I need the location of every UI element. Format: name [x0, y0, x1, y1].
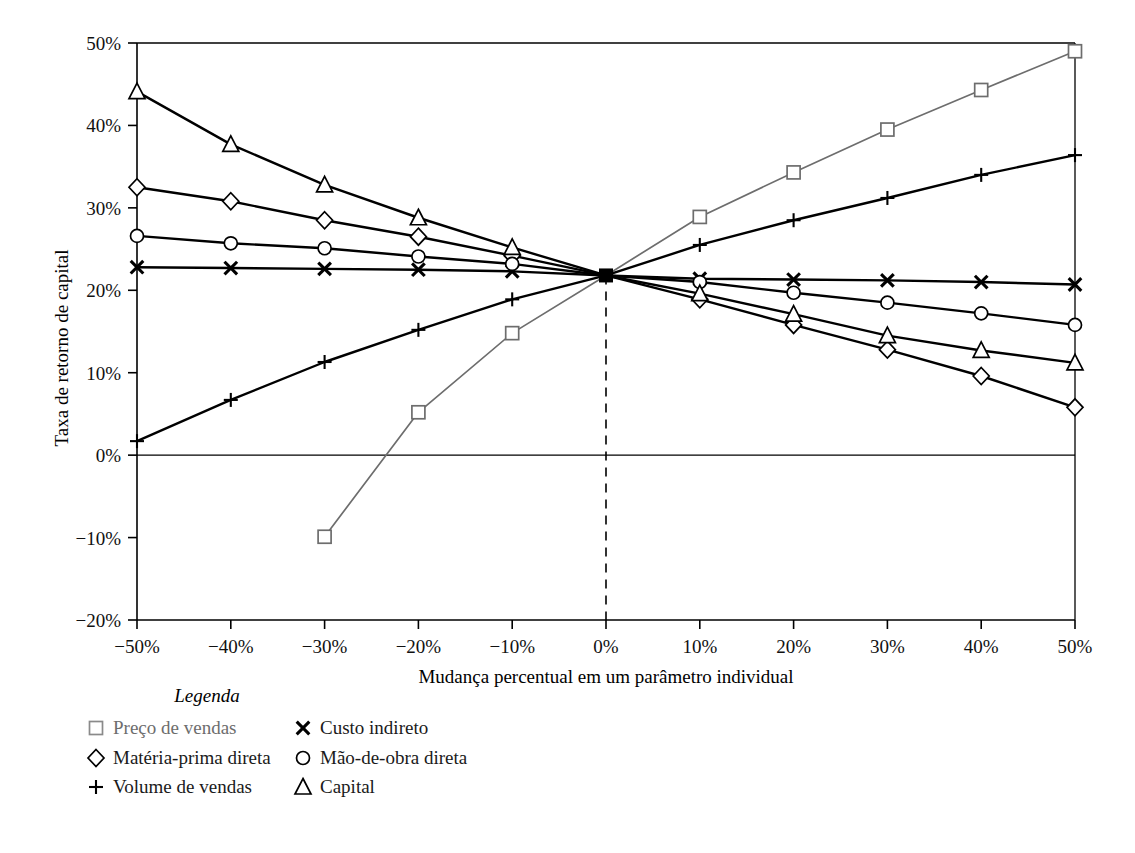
data-point-diamond: [223, 193, 239, 210]
y-tick-label: −20%: [75, 610, 121, 631]
y-tick-label: 10%: [86, 363, 121, 384]
x-tick-label: 20%: [776, 636, 811, 657]
x-tick-label: −30%: [302, 636, 348, 657]
data-point-circle: [224, 237, 237, 250]
data-point-diamond: [973, 368, 989, 385]
data-point-circle: [1069, 318, 1082, 331]
x-tick-label: 50%: [1058, 636, 1093, 657]
legend-item-label: Custo indireto: [320, 717, 428, 738]
data-point-triangle: [317, 176, 333, 192]
legend-item[interactable]: Volume de vendas: [89, 776, 252, 797]
data-point-circle: [975, 307, 988, 320]
x-axis-ticks: −50%−40%−30%−20%−10%0%10%20%30%40%50%: [114, 620, 1092, 657]
legend-item[interactable]: Matéria-prima direta: [88, 747, 271, 768]
chart-canvas: −20%−10%0%10%20%30%40%50% −50%−40%−30%−2…: [0, 0, 1135, 853]
x-tick-label: 0%: [593, 636, 619, 657]
convergence-marker: [599, 268, 613, 282]
x-tick-label: −40%: [208, 636, 254, 657]
data-point-square: [881, 123, 894, 136]
x-tick-label: −10%: [489, 636, 535, 657]
data-point-plus: [880, 191, 894, 205]
y-tick-label: 30%: [86, 198, 121, 219]
y-axis-ticks: −20%−10%0%10%20%30%40%50%: [75, 33, 137, 631]
legend-marker-square: [90, 722, 103, 735]
legend-item-label: Volume de vendas: [113, 776, 252, 797]
legend-marker-triangle: [295, 779, 311, 795]
data-point-plus: [130, 434, 144, 448]
data-point-plus: [318, 355, 332, 369]
data-point-diamond: [129, 179, 145, 196]
legend-marker-plus: [89, 780, 103, 794]
data-point-triangle: [129, 83, 145, 99]
data-point-circle: [881, 296, 894, 309]
data-point-circle: [412, 250, 425, 263]
legend-title: Legenda: [173, 685, 239, 706]
legend-item-label: Capital: [320, 776, 375, 797]
data-point-plus: [411, 323, 425, 337]
y-tick-label: 0%: [96, 445, 122, 466]
sensitivity-chart: −20%−10%0%10%20%30%40%50% −50%−40%−30%−2…: [0, 0, 1135, 853]
data-point-square: [787, 166, 800, 179]
legend-item[interactable]: Custo indireto: [297, 717, 429, 738]
legend-item-label: Mão-de-obra direta: [320, 747, 468, 768]
data-point-plus: [224, 393, 238, 407]
data-point-square: [693, 210, 706, 223]
data-point-diamond: [410, 228, 426, 245]
x-tick-label: 30%: [870, 636, 905, 657]
data-point-circle: [787, 286, 800, 299]
legend-item-label: Preço de vendas: [113, 717, 236, 738]
legend-marker-diamond: [88, 750, 104, 767]
x-tick-label: −20%: [396, 636, 442, 657]
x-tick-label: 10%: [682, 636, 717, 657]
data-point-square: [1069, 45, 1082, 58]
legend: Preço de vendasMatéria-prima diretaVolum…: [88, 717, 468, 797]
data-point-circle: [131, 229, 144, 242]
data-point-diamond: [317, 212, 333, 229]
legend-item[interactable]: Mão-de-obra direta: [297, 747, 468, 768]
x-tick-label: 40%: [964, 636, 999, 657]
y-tick-label: 20%: [86, 280, 121, 301]
legend-item-label: Matéria-prima direta: [113, 747, 271, 768]
legend-marker-cross: [297, 722, 310, 735]
data-point-plus: [505, 292, 519, 306]
data-point-plus: [1068, 148, 1082, 162]
x-tick-label: −50%: [114, 636, 160, 657]
data-point-square: [975, 83, 988, 96]
legend-item[interactable]: Capital: [295, 776, 375, 797]
data-point-plus: [974, 168, 988, 182]
x-axis-title: Mudança percentual em um parâmetro indiv…: [418, 666, 793, 687]
y-axis-title: Taxa de retorno de capital: [51, 249, 72, 446]
data-point-circle: [506, 257, 519, 270]
y-tick-label: 50%: [86, 33, 121, 54]
data-point-square: [506, 327, 519, 340]
data-point-square: [412, 406, 425, 419]
y-tick-label: −10%: [75, 528, 121, 549]
data-point-square: [318, 530, 331, 543]
legend-marker-circle: [297, 752, 310, 765]
data-point-circle: [318, 242, 331, 255]
data-point-plus: [693, 238, 707, 252]
legend-item[interactable]: Preço de vendas: [90, 717, 237, 738]
data-point-triangle: [223, 136, 239, 152]
data-point-diamond: [1067, 399, 1083, 416]
y-tick-label: 40%: [86, 115, 121, 136]
data-point-diamond: [879, 341, 895, 358]
data-point-plus: [787, 213, 801, 227]
